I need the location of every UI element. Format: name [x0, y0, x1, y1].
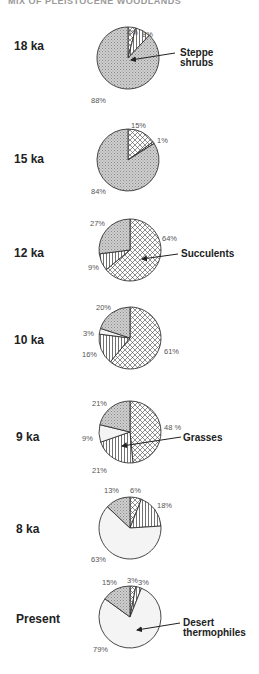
pie-9-ka [99, 401, 161, 463]
pct-8-grasses: 18% [157, 501, 172, 510]
callout-desert-2: thermophiles [183, 627, 246, 638]
label-18ka: 18 ka [14, 39, 44, 53]
pct-12-grasses: 9% [88, 263, 99, 272]
pct-10-desert: 3% [83, 329, 94, 338]
slice-succulents [130, 401, 161, 463]
pct-15-succulents: 15% [131, 121, 146, 130]
pct-9-succulents: 48 % [164, 423, 181, 432]
pie-12-ka [99, 219, 161, 281]
pct-9-desert: 9% [82, 434, 93, 443]
pct-15-grasses: 1% [157, 136, 168, 145]
pie-chart-figure: 18 ka 15 ka 12 ka 10 ka 9 ka 8 ka Presen… [0, 0, 259, 674]
pct-8-succulents: 6% [130, 486, 141, 495]
label-15ka: 15 ka [14, 152, 44, 166]
pct-present-grasses: 3% [138, 578, 149, 587]
pie-15-ka [97, 129, 159, 191]
pie-present [99, 586, 161, 648]
pct-10-succulents: 61% [164, 347, 179, 356]
pct-18-grasses: 8% [142, 30, 153, 39]
label-10ka: 10 ka [14, 333, 44, 347]
callout-succulents: Succulents [181, 248, 235, 259]
pct-present-steppe: 15% [102, 578, 117, 587]
pct-present-succulents: 3% [127, 576, 138, 585]
callout-grasses: Grasses [183, 432, 223, 443]
pct-9-grasses: 21% [92, 466, 107, 475]
pct-12-steppe: 27% [90, 219, 105, 228]
pct-8-desert: 63% [91, 555, 106, 564]
pie-8-ka [99, 497, 161, 559]
label-present: Present [16, 612, 60, 626]
pct-present-desert: 79% [93, 645, 108, 654]
pct-12-succulents: 64% [162, 234, 177, 243]
pct-8-steppe: 13% [104, 486, 119, 495]
pct-10-grasses: 16% [82, 350, 97, 359]
callout-steppe-2: shrubs [180, 57, 214, 68]
label-8ka: 8 ka [16, 522, 40, 536]
time-labels: 18 ka 15 ka 12 ka 10 ka 9 ka 8 ka Presen… [14, 39, 60, 626]
pct-18-steppe: 88% [91, 96, 106, 105]
pct-9-steppe: 21% [92, 399, 107, 408]
pct-10-steppe: 20% [96, 303, 111, 312]
label-12ka: 12 ka [14, 246, 44, 260]
pie-10-ka [99, 307, 161, 369]
pct-15-steppe: 84% [91, 187, 106, 196]
label-9ka: 9 ka [16, 430, 40, 444]
pct-18-succulents: 4% [127, 28, 138, 37]
